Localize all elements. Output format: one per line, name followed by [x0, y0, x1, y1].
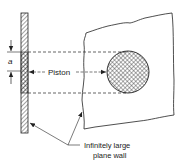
wall-label-line1: Infinitely large — [84, 141, 130, 150]
wall-label-line2: plane wall — [93, 151, 127, 160]
piston-side-section — [21, 52, 28, 93]
dimension-a: a — [7, 40, 21, 84]
dimension-a-label: a — [8, 57, 13, 66]
wall-callout: Infinitely large plane wall — [30, 112, 130, 160]
piston-label: Piston — [48, 68, 70, 77]
piston-in-wall-diagram: a Piston Infinitely large plane wall — [0, 0, 181, 163]
piston-front-view — [107, 51, 149, 93]
piston-callout: Piston — [29, 68, 106, 77]
